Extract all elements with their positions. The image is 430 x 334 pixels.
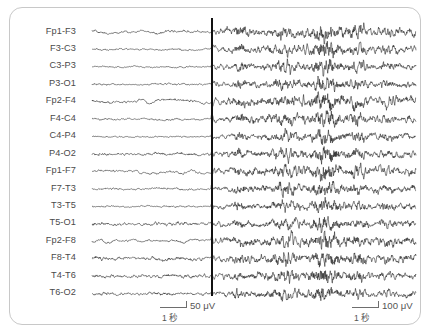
scale-time-label-right: 1 秒: [354, 311, 370, 323]
eeg-trace-c4-p4: [92, 128, 416, 145]
channel-label-column: Fp1-F3F3-C3C3-P3P3-O1Fp2-F4F4-C4C4-P4P4-…: [0, 0, 90, 334]
eeg-trace-c3-p3: [92, 59, 416, 77]
channel-label-fp2-f4: Fp2-F4: [0, 95, 76, 105]
channel-label-c3-p3: C3-P3: [0, 60, 76, 70]
scale-tick-right: [378, 301, 379, 308]
eeg-trace-t5-o1: [92, 216, 416, 233]
channel-label-t3-t5: T3-T5: [0, 200, 76, 210]
eeg-trace-t6-o2: [92, 287, 416, 301]
eeg-trace-p4-o2: [92, 146, 416, 164]
eeg-trace-fp1-f3: [92, 23, 416, 44]
scale-tick-left: [186, 301, 187, 308]
eeg-trace-fp1-f7: [92, 163, 416, 182]
scale-time-label-left: 1 秒: [162, 311, 178, 323]
eeg-recording-panel: Fp1-F3F3-C3C3-P3P3-O1Fp2-F4F4-C4C4-P4P4-…: [0, 0, 430, 334]
event-onset-marker: [211, 18, 213, 296]
eeg-trace-p3-o1: [92, 76, 416, 92]
channel-label-p4-o2: P4-O2: [0, 148, 76, 158]
scale-amplitude-label-left: 50 μV: [190, 300, 215, 311]
eeg-trace-f8-t4: [92, 252, 416, 267]
channel-label-fp1-f3: Fp1-F3: [0, 26, 76, 36]
scale-rule-left: [160, 307, 186, 308]
eeg-trace-f4-c4: [92, 111, 416, 128]
channel-label-c4-p4: C4-P4: [0, 130, 76, 140]
eeg-trace-fp2-f8: [92, 230, 416, 249]
channel-label-f7-t3: F7-T3: [0, 183, 76, 193]
eeg-trace-fp2-f4: [92, 92, 416, 112]
channel-label-t5-o1: T5-O1: [0, 217, 76, 227]
scale-rule-right: [352, 307, 378, 308]
eeg-trace-t4-t6: [92, 270, 416, 284]
channel-label-p3-o1: P3-O1: [0, 78, 76, 88]
scale-amplitude-label-right: 100 μV: [382, 300, 413, 311]
channel-label-fp2-f8: Fp2-F8: [0, 235, 76, 245]
channel-label-f8-t4: F8-T4: [0, 252, 76, 262]
eeg-trace-t3-t5: [92, 197, 416, 213]
eeg-trace-f3-c3: [92, 41, 416, 58]
channel-label-t6-o2: T6-O2: [0, 287, 76, 297]
channel-label-t4-t6: T4-T6: [0, 270, 76, 280]
channel-label-fp1-f7: Fp1-F7: [0, 165, 76, 175]
channel-label-f3-c3: F3-C3: [0, 43, 76, 53]
channel-label-f4-c4: F4-C4: [0, 113, 76, 123]
eeg-trace-f7-t3: [92, 181, 416, 198]
